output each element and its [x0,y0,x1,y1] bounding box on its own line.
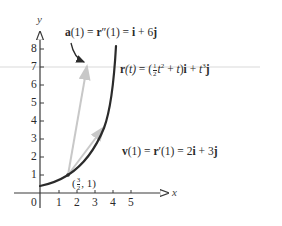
x-axis-label: x [172,187,177,198]
x-tick-label: 2 [74,197,80,209]
y-tick-label: 8 [31,43,37,55]
y-tick-label: 2 [31,151,37,163]
x-tick-label: 1 [56,197,62,209]
y-tick-label: 7 [31,61,37,73]
velocity-vector [68,127,104,175]
x-tick-label: 3 [92,197,98,209]
x-tick-label: 4 [110,197,116,209]
y-tick-label: 4 [31,115,37,127]
acceleration-vector [68,66,87,175]
label-pointer-arrow [71,43,84,62]
y-tick-label: 1 [31,169,37,181]
position-label: r(t) = (12t2 + t)i + t3j [120,63,210,78]
y-axis-label: y [37,14,42,25]
velocity-label: v(1) = r′(1) = 2i + 3j [122,146,217,158]
acceleration-label: a(1) = r″(1) = i + 6j [65,27,157,39]
vector-function-diagram: y x 0 1 2 3 4 5 1 2 3 4 5 6 7 8 a(1) = r… [0,0,282,226]
origin-label: 0 [31,197,37,209]
x-tick-label: 5 [128,197,134,209]
point-label: (32, 1) [72,177,96,192]
y-tick-label: 3 [31,133,37,145]
y-tick-label: 5 [31,97,37,109]
y-tick-label: 6 [31,79,37,91]
point-marker [66,173,70,177]
